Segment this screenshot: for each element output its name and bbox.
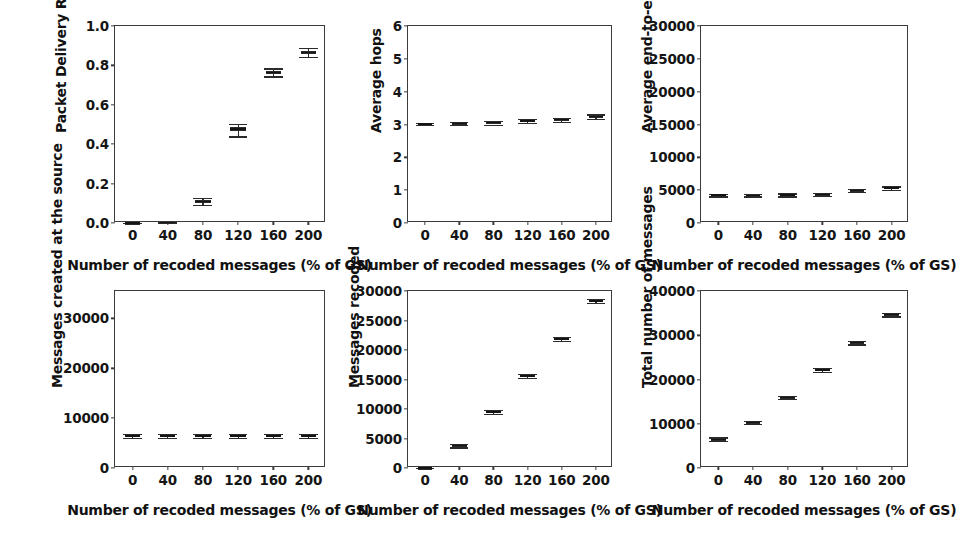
subplot-total-number-of-messages: 01000020000300004000004080120160200Numbe… [0,0,979,541]
boxplot-artist [701,291,909,468]
x-axis-label: Number of recoded messages (% of GS) [652,502,957,518]
x-tick-label: 80 [778,472,796,488]
x-tick-label: 0 [714,472,723,488]
plot-area-total-number-of-messages: 01000020000300004000004080120160200Numbe… [700,290,908,467]
y-axis-label: Total number of messages [639,186,655,388]
median-line [884,314,899,315]
x-tick-label: 200 [878,472,906,488]
y-tick-label: 40000 [649,283,695,299]
cap-lower [882,316,901,317]
x-tick-label: 120 [809,472,837,488]
y-tick-label: 30000 [649,327,695,343]
x-tick-label: 40 [744,472,762,488]
x-tick-label: 160 [843,472,871,488]
y-tick-label: 20000 [649,372,695,388]
y-tick-label: 10000 [649,416,695,432]
figure-canvas: 0.00.20.40.60.81.004080120160200Number o… [0,0,979,541]
y-tick-label: 0 [686,460,695,476]
